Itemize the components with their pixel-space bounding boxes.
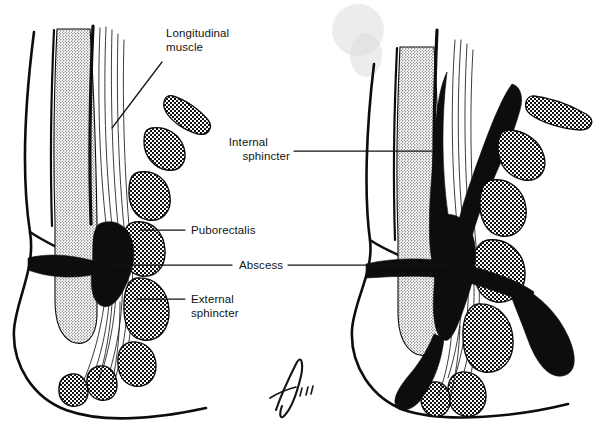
label-external-sphincter-line1: External bbox=[191, 293, 234, 305]
label-external-sphincter-line2: sphincter bbox=[191, 307, 239, 319]
label-longitudinal-muscle-line1: Longitudinal bbox=[166, 27, 229, 39]
anorectal-diagram: Longitudinal muscle Internal sphincter P… bbox=[0, 0, 609, 444]
figure-root: Longitudinal muscle Internal sphincter P… bbox=[0, 0, 609, 444]
label-internal-sphincter-line2: sphincter bbox=[242, 150, 290, 162]
right-external-sphincter-lower bbox=[448, 372, 486, 416]
label-abscess: Abscess bbox=[239, 259, 283, 271]
left-subcutaneous-bundle-b bbox=[59, 374, 88, 406]
label-puborectalis: Puborectalis bbox=[191, 224, 256, 236]
left-external-sphincter-lower bbox=[118, 342, 156, 386]
label-internal-sphincter-line1: Internal bbox=[229, 136, 268, 148]
label-longitudinal-muscle-line2: muscle bbox=[166, 41, 203, 53]
